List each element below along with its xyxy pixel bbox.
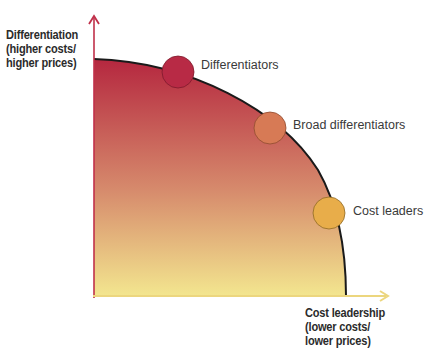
cost-leaders-label: Cost leaders <box>353 204 423 218</box>
y-axis-label-line: (higher costs/ <box>6 42 78 56</box>
x-axis-label-line: (lower costs/ <box>305 320 385 334</box>
x-axis-label-line: lower prices) <box>305 334 385 348</box>
x-axis-label-line: Cost leadership <box>305 306 385 320</box>
differentiators-point <box>162 56 194 88</box>
y-axis-label: Differentiation (higher costs/ higher pr… <box>6 28 78 70</box>
y-axis-label-line: higher prices) <box>6 56 78 70</box>
cost-leaders-point <box>313 197 345 229</box>
frontier-area <box>94 59 346 296</box>
broad-differentiators-label: Broad differentiators <box>293 118 405 132</box>
differentiators-label: Differentiators <box>201 58 279 72</box>
y-axis-label-line: Differentiation <box>6 28 78 42</box>
broad-differentiators-point <box>254 112 286 144</box>
x-axis-label: Cost leadership (lower costs/ lower pric… <box>305 306 385 348</box>
